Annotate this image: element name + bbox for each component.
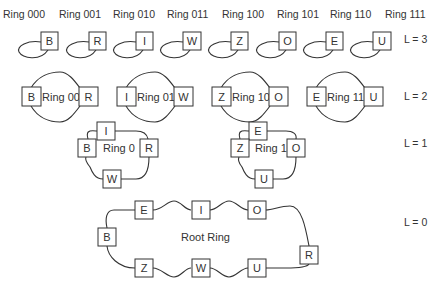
svg-text:W: W <box>196 262 207 274</box>
ring-label-10: Ring 10 <box>232 91 270 103</box>
node-u-l0: U <box>248 259 266 277</box>
svg-text:E: E <box>313 91 320 103</box>
ring-label-011: Ring 011 <box>167 8 208 20</box>
level-0: E I O B Root Ring R Z W U L = 0 <box>98 201 427 277</box>
svg-text:I: I <box>104 125 107 137</box>
node-b-l3: B <box>41 32 58 50</box>
svg-text:R: R <box>145 142 153 154</box>
svg-text:O: O <box>292 142 301 154</box>
svg-text:W: W <box>178 91 189 103</box>
level-label-3: L = 3 <box>404 33 427 45</box>
ring-label-000: Ring 000 <box>3 8 45 20</box>
node-e-l1: E <box>249 122 267 140</box>
node-r-l3: R <box>89 32 106 50</box>
node-r-l0: R <box>300 246 318 264</box>
ring-label-00: Ring 00 <box>42 91 80 103</box>
svg-text:O: O <box>283 35 292 47</box>
node-r-l1: R <box>140 139 158 157</box>
svg-text:E: E <box>254 125 261 137</box>
svg-text:I: I <box>199 204 202 216</box>
node-e-l0: E <box>135 201 153 219</box>
node-w-l0: W <box>192 259 210 277</box>
svg-text:R: R <box>305 249 313 261</box>
node-o-l2: O <box>269 87 288 106</box>
svg-text:O: O <box>253 204 262 216</box>
svg-text:Z: Z <box>236 35 243 47</box>
node-z-l2: Z <box>212 87 231 106</box>
ring-hierarchy-diagram: Ring 000 Ring 001 Ring 010 Ring 011 Ring… <box>0 0 444 295</box>
node-o-l3: O <box>279 32 296 50</box>
node-u-l3: U <box>373 32 391 50</box>
node-r-l2: R <box>79 87 98 106</box>
root-ring-label: Root Ring <box>181 231 230 243</box>
svg-text:O: O <box>274 91 283 103</box>
svg-text:Z: Z <box>237 142 244 154</box>
svg-text:R: R <box>94 35 102 47</box>
node-i-l0: I <box>192 201 210 219</box>
node-i-l1: I <box>97 122 115 140</box>
svg-text:B: B <box>46 35 53 47</box>
node-u-l2: U <box>364 87 383 106</box>
node-b-l1: B <box>78 139 96 157</box>
ring-label-111: Ring 111 <box>385 8 426 20</box>
node-o-l0: O <box>248 201 266 219</box>
ring-label-01: Ring 01 <box>137 91 175 103</box>
node-w-l1: W <box>103 170 121 188</box>
svg-text:I: I <box>143 35 146 47</box>
ring-label-11: Ring 11 <box>327 91 364 103</box>
ring-label-1: Ring 1 <box>255 142 287 154</box>
ring-label-100: Ring 100 <box>222 8 264 20</box>
svg-text:W: W <box>187 35 198 47</box>
svg-text:B: B <box>83 142 90 154</box>
node-z-l1: Z <box>231 139 249 157</box>
ring-label-110: Ring 110 <box>330 8 371 20</box>
svg-text:U: U <box>260 173 268 185</box>
level-2: B Ring 00 R I Ring 01 W Z Ring 10 O E Ri… <box>22 72 427 122</box>
level-label-0: L = 0 <box>404 216 427 228</box>
node-w-l3: W <box>183 32 201 50</box>
level-label-2: L = 2 <box>404 90 427 102</box>
ring-label-001: Ring 001 <box>59 8 101 20</box>
node-b-l0: B <box>98 228 116 246</box>
svg-text:I: I <box>125 91 128 103</box>
level-1: I B Ring 0 R W E Z Ring 1 O U L = 1 <box>78 122 427 188</box>
svg-text:Z: Z <box>141 262 148 274</box>
ring-label-101: Ring 101 <box>277 8 319 20</box>
svg-text:W: W <box>107 173 118 185</box>
node-i-l3: I <box>136 32 153 50</box>
node-e-l2: E <box>307 87 326 106</box>
node-w-l2: W <box>174 87 193 106</box>
node-e-l3: E <box>326 32 343 50</box>
ring-label-0: Ring 0 <box>103 142 135 154</box>
node-o-l1: O <box>287 139 305 157</box>
level-label-1: L = 1 <box>404 137 427 149</box>
svg-text:U: U <box>370 91 378 103</box>
node-i-l2: I <box>117 87 136 106</box>
node-b-l2: B <box>22 87 41 106</box>
node-z-l0: Z <box>135 259 153 277</box>
ring-label-010: Ring 010 <box>113 8 155 20</box>
svg-text:E: E <box>140 204 147 216</box>
svg-text:B: B <box>28 91 35 103</box>
svg-text:R: R <box>85 91 93 103</box>
level-3: Ring 000 Ring 001 Ring 010 Ring 011 Ring… <box>3 8 427 58</box>
node-u-l1: U <box>255 170 273 188</box>
svg-text:U: U <box>253 262 261 274</box>
node-z-l3: Z <box>231 32 248 50</box>
svg-text:E: E <box>331 35 338 47</box>
svg-text:U: U <box>378 35 386 47</box>
svg-text:Z: Z <box>218 91 225 103</box>
svg-text:B: B <box>103 231 110 243</box>
